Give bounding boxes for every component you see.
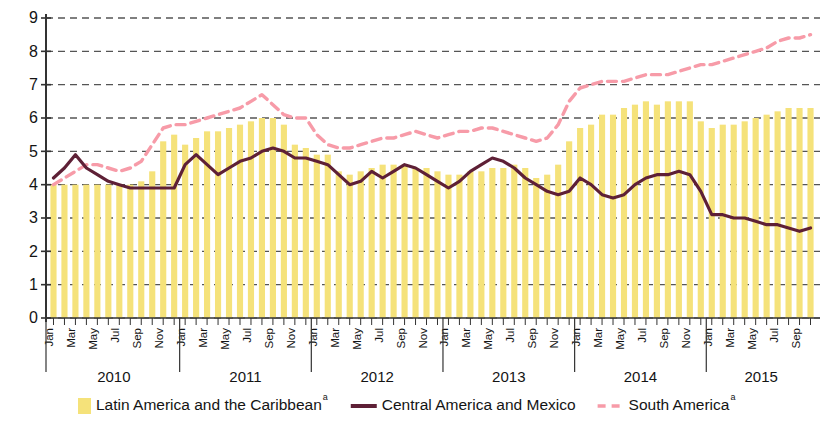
y-tick-label-7: 7 <box>29 76 38 93</box>
bar <box>423 168 429 318</box>
bar <box>138 181 144 318</box>
bar <box>676 101 682 318</box>
bar <box>303 148 309 318</box>
bar <box>292 145 298 318</box>
x-month-label: May <box>219 328 231 350</box>
bar <box>709 128 715 318</box>
bar <box>149 171 155 318</box>
bar <box>566 141 572 318</box>
bar <box>105 185 111 318</box>
bar <box>127 185 133 318</box>
bar <box>401 165 407 318</box>
bar <box>533 178 539 318</box>
bar <box>237 125 243 318</box>
bar <box>720 125 726 318</box>
x-month-label: Nov <box>548 328 560 349</box>
x-month-label: Jan <box>43 328 55 347</box>
bar <box>687 101 693 318</box>
bar <box>555 165 561 318</box>
legend-swatch-icon <box>78 398 91 414</box>
x-month-label: Nov <box>285 328 297 349</box>
bar <box>434 171 440 318</box>
y-tick-label-3: 3 <box>29 209 38 226</box>
legend-label: Central America and Mexico <box>382 396 576 413</box>
x-month-label: Nov <box>417 328 429 349</box>
bar <box>358 171 364 318</box>
x-month-label: Jan <box>175 328 187 347</box>
x-month-label: May <box>614 328 626 350</box>
x-month-label: Jul <box>109 328 121 343</box>
bar <box>248 121 254 318</box>
legend-item[interactable]: Latin America and the Caribbeana <box>78 392 328 414</box>
x-month-label: Jan <box>570 328 582 347</box>
x-month-label: Jul <box>636 328 648 343</box>
bar <box>775 111 781 318</box>
bar <box>412 168 418 318</box>
bar <box>500 168 506 318</box>
bar <box>204 131 210 318</box>
bar <box>522 168 528 318</box>
x-month-label: Jul <box>241 328 253 343</box>
bar <box>380 165 386 318</box>
bar <box>314 155 320 318</box>
bar <box>467 171 473 318</box>
x-month-label: Sep <box>790 328 802 348</box>
y-tick-label-2: 2 <box>29 243 38 260</box>
x-month-label: Sep <box>658 328 670 348</box>
bar <box>61 185 67 318</box>
bar <box>391 165 397 318</box>
x-month-label: Jul <box>373 328 385 343</box>
bar <box>511 165 517 318</box>
y-tick-label-9: 9 <box>29 9 38 26</box>
y-tick-label-6: 6 <box>29 109 38 126</box>
chart-legend: Latin America and the CaribbeanaCentral … <box>78 392 735 414</box>
bar <box>599 115 605 318</box>
x-month-label: May <box>482 328 494 350</box>
bar <box>116 185 122 318</box>
bar <box>193 138 199 318</box>
x-year-label: 2014 <box>624 368 657 385</box>
x-month-label: Nov <box>680 328 692 349</box>
x-month-label: May <box>87 328 99 350</box>
bar <box>665 101 671 318</box>
x-month-label: Sep <box>395 328 407 348</box>
bar <box>785 108 791 318</box>
x-month-label: Jul <box>504 328 516 343</box>
bar <box>489 168 495 318</box>
bar <box>588 125 594 318</box>
x-year-label: 2012 <box>360 368 393 385</box>
bar <box>369 168 375 318</box>
x-month-label: Mar <box>197 328 209 348</box>
bar <box>94 185 100 318</box>
bar <box>325 155 331 318</box>
bar <box>50 185 56 318</box>
x-month-label: Mar <box>329 328 341 348</box>
bar <box>698 121 704 318</box>
x-month-label: Mar <box>460 328 472 348</box>
x-month-label: May <box>351 328 363 350</box>
bar <box>654 105 660 318</box>
unemployment-line-bar-chart: 0123456789 JanMarMayJulSepNovJanMarMayJu… <box>0 0 820 423</box>
x-month-label: Jan <box>702 328 714 347</box>
x-month-label: Jan <box>307 328 319 347</box>
bar <box>336 171 342 318</box>
bar <box>610 115 616 318</box>
y-tick-label-1: 1 <box>29 276 38 293</box>
bar <box>259 118 265 318</box>
bar <box>83 185 89 318</box>
bar <box>215 131 221 318</box>
bar <box>753 118 759 318</box>
bar <box>643 101 649 318</box>
y-tick-label-0: 0 <box>29 309 38 326</box>
bar <box>72 185 78 318</box>
bar <box>544 175 550 318</box>
x-year-label: 2013 <box>492 368 525 385</box>
x-month-label: Sep <box>526 328 538 348</box>
legend-label: South America <box>629 396 730 413</box>
y-tick-label-4: 4 <box>29 176 38 193</box>
legend-item[interactable]: Central America and Mexico <box>351 396 576 413</box>
bar <box>731 125 737 318</box>
y-tick-label-8: 8 <box>29 43 38 60</box>
bar <box>226 128 232 318</box>
bar <box>160 141 166 318</box>
